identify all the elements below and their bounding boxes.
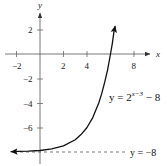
curve-equation-label: y = 2x−3 − 8	[109, 90, 161, 103]
y-axis: y 2 −2 −4 −6	[23, 0, 43, 164]
asymptote-label: y = −8	[130, 147, 156, 158]
curve-eq-tail: − 8	[143, 91, 161, 103]
x-tick-label: 8	[132, 61, 137, 71]
x-tick-label: −2	[12, 61, 22, 71]
y-tick-label: −2	[23, 74, 33, 84]
y-axis-label: y	[37, 0, 42, 10]
curve-eq-exponent: x−3	[131, 90, 144, 98]
y-tick-label: −6	[23, 123, 33, 133]
x-axis: x −2 2 4 8	[5, 49, 160, 71]
curve-eq-main: y = 2	[109, 91, 132, 103]
x-tick-label: 4	[85, 61, 90, 71]
y-tick-label: 2	[28, 25, 33, 35]
y-tick-label: −4	[23, 99, 33, 109]
x-tick-label: 2	[61, 61, 66, 71]
x-axis-label: x	[155, 49, 160, 59]
exponential-function-graph: x −2 2 4 8 y 2 −2 −4 −6 y = −8 y = 2x−3 …	[0, 0, 167, 166]
